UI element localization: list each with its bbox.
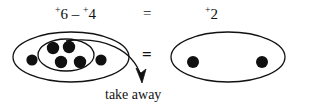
operand-two: 2 — [211, 6, 219, 22]
operand-six: 6 — [61, 6, 69, 22]
result-ellipse-group — [171, 32, 285, 82]
counter-dot — [74, 56, 86, 68]
expression-result: +2 — [205, 5, 218, 22]
equals-sign-top: = — [143, 6, 151, 21]
minus-operator: – — [72, 6, 80, 22]
result-counter-dot — [256, 56, 268, 68]
take-away-arrowhead-icon — [136, 68, 146, 83]
counter-dot — [26, 54, 37, 65]
result-counter-dot — [187, 56, 199, 68]
expression-left: +6 – +4 — [55, 5, 96, 22]
counter-dot — [95, 54, 106, 65]
counter-dot — [47, 42, 59, 54]
equals-sign-middle: = — [142, 46, 152, 63]
counter-dot — [55, 56, 67, 68]
operand-four: 4 — [89, 6, 97, 22]
counter-dot — [63, 41, 75, 53]
math-diagram-figure: +6 – +4 = +2 = take away — [0, 0, 309, 112]
take-away-label: take away — [105, 88, 161, 102]
